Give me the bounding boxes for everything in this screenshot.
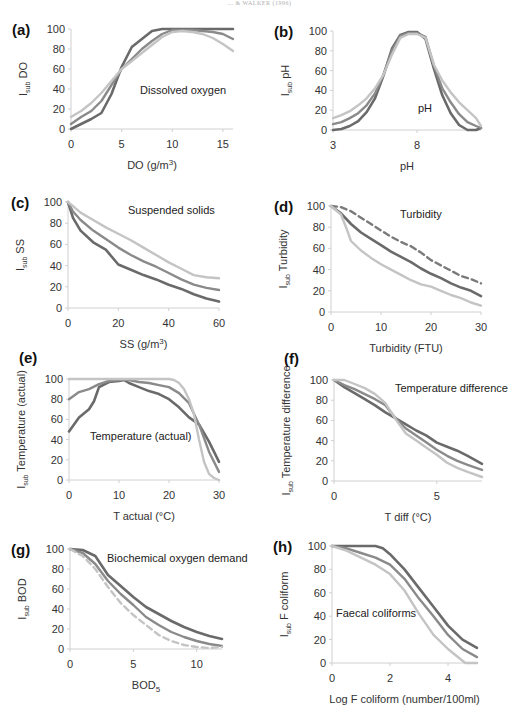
y-tick-label: 20 [53, 103, 65, 115]
x-tick-label: 20 [425, 321, 437, 333]
y-tick-label: 60 [52, 583, 64, 595]
chart-title: Turbidity [400, 208, 442, 220]
y-tick-label: 100 [47, 23, 65, 35]
panel-label: (f) [284, 350, 299, 367]
x-tick-label: 0 [66, 489, 72, 501]
x-tick-label: 30 [475, 321, 487, 333]
series-line-2 [333, 33, 481, 128]
panel-label: (e) [19, 349, 37, 366]
y-tick-label: 20 [315, 104, 327, 116]
x-tick-label: 0 [68, 138, 74, 150]
y-axis-label: Isub Temperature difference [280, 365, 294, 495]
chart-panel-f: 02040608010005(f)Temperature differenceT… [280, 350, 508, 523]
y-tick-label: 40 [313, 264, 325, 276]
y-tick-label: 20 [50, 281, 62, 293]
y-tick-label: 60 [314, 587, 326, 599]
x-tick-label: 10 [191, 658, 203, 670]
series-line-1 [332, 546, 477, 648]
y-tick-label: 100 [44, 196, 62, 208]
y-tick-label: 40 [316, 435, 328, 447]
x-tick-label: 15 [217, 138, 229, 150]
y-tick-label: 80 [53, 43, 65, 55]
y-tick-label: 100 [307, 200, 325, 212]
y-tick-label: 60 [50, 238, 62, 250]
y-tick-label: 80 [314, 563, 326, 575]
x-tick-label: 0 [331, 490, 337, 502]
y-tick-label: 80 [316, 394, 328, 406]
figure-panels: 020406080100051015(a)Dissolved oxygenDO … [0, 0, 519, 711]
y-tick-label: 100 [308, 540, 326, 552]
x-axis-label: pH [400, 160, 414, 172]
y-axis-label: Isub DO [17, 62, 31, 96]
panel-label: (g) [11, 541, 30, 558]
x-axis-label: T diff (°C) [385, 511, 432, 523]
y-tick-label: 40 [52, 603, 64, 615]
chart-panel-c: 0204060801000204060(c)Suspended solidsSS… [11, 194, 225, 350]
panel-label: (b) [274, 23, 293, 40]
x-tick-label: 2 [387, 672, 393, 684]
chart-panel-a: 020406080100051015(a)Dissolved oxygenDO … [12, 21, 233, 171]
y-tick-label: 20 [316, 455, 328, 467]
chart-title: Faecal coliforms [336, 607, 417, 619]
x-tick-label: 40 [163, 317, 175, 329]
chart-panel-g: 0204060801000510(g)Biochemical oxygen de… [11, 541, 248, 694]
chart-title: Biochemical oxygen demand [107, 552, 248, 564]
y-tick-label: 0 [322, 475, 328, 487]
panel-label: (h) [273, 538, 292, 555]
y-tick-label: 20 [313, 285, 325, 297]
x-axis-label: Turbidity (FTU) [369, 342, 443, 354]
y-tick-label: 100 [46, 543, 64, 555]
y-tick-label: 0 [58, 643, 64, 655]
x-tick-label: 3 [330, 139, 336, 151]
chart-panel-b: 02040608010038(b)pHpHIsub pH [274, 23, 481, 172]
y-tick-label: 60 [53, 63, 65, 75]
chart-title: pH [418, 102, 432, 114]
x-tick-label: 0 [65, 317, 71, 329]
y-tick-label: 80 [315, 45, 327, 57]
y-tick-label: 60 [51, 413, 63, 425]
y-tick-label: 20 [51, 454, 63, 466]
y-tick-label: 40 [51, 434, 63, 446]
x-axis-label: T actual (°C) [113, 510, 175, 522]
y-axis-label: Isub Temperature (actual) [15, 370, 29, 489]
y-tick-label: 80 [52, 563, 64, 575]
panel-label: (a) [12, 21, 30, 38]
x-tick-label: 5 [119, 138, 125, 150]
y-axis-label: Isub SS [14, 239, 28, 271]
x-tick-label: 30 [213, 489, 225, 501]
x-tick-label: 4 [445, 672, 451, 684]
y-axis-label: Isub BOD [16, 578, 30, 619]
y-axis-label: Isub Turbidity [277, 229, 291, 288]
x-tick-label: 8 [414, 139, 420, 151]
y-tick-label: 0 [320, 657, 326, 669]
chart-title: Temperature (actual) [90, 430, 192, 442]
x-axis-label: BOD5 [132, 679, 161, 694]
series-line-2 [332, 546, 477, 657]
chart-panel-d: 0204060801000102030(d)TurbidityTurbidity… [274, 198, 487, 354]
x-tick-label: 0 [329, 672, 335, 684]
y-tick-label: 100 [45, 373, 63, 385]
x-axis-label: Log F coliform (number/100ml) [329, 693, 479, 705]
chart-title: Temperature difference [395, 382, 508, 394]
chart-panel-h: 020406080100024(h)Faecal coliformsLog F … [273, 538, 480, 705]
y-tick-label: 0 [57, 474, 63, 486]
y-tick-label: 60 [313, 242, 325, 254]
y-tick-label: 0 [56, 302, 62, 314]
series-line-3 [332, 546, 477, 663]
y-tick-label: 40 [50, 260, 62, 272]
x-tick-label: 10 [375, 321, 387, 333]
y-tick-label: 0 [321, 124, 327, 136]
x-tick-label: 0 [328, 321, 334, 333]
y-tick-label: 0 [319, 306, 325, 318]
series-line-3 [331, 206, 481, 306]
y-tick-label: 100 [309, 25, 327, 37]
x-tick-label: 60 [213, 317, 225, 329]
y-tick-label: 20 [52, 623, 64, 635]
x-tick-label: 10 [113, 489, 125, 501]
y-axis-label: Isub pH [279, 65, 293, 97]
x-tick-label: 0 [67, 658, 73, 670]
y-tick-label: 80 [51, 393, 63, 405]
x-tick-label: 10 [166, 138, 178, 150]
x-tick-label: 5 [434, 490, 440, 502]
y-tick-label: 40 [314, 610, 326, 622]
